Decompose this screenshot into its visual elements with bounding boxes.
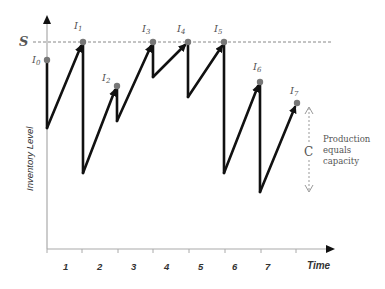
label-i1: I1 (73, 20, 82, 33)
x-axis-ticks (47, 249, 296, 253)
x-axis-arrow-icon (326, 245, 335, 253)
label-i3: I3 (141, 23, 151, 36)
x-axis-label: Time (307, 260, 331, 271)
point-i7 (294, 100, 300, 106)
point-i5 (221, 39, 227, 45)
label-i6: I6 (252, 61, 262, 74)
capacity-c-label: C (304, 145, 313, 159)
period-3: 3 (131, 261, 137, 272)
point-i4 (185, 39, 191, 45)
period-5: 5 (198, 261, 204, 272)
period-6: 6 (232, 261, 238, 272)
label-i4: I4 (176, 23, 185, 36)
y-axis-label: Inventory Level (24, 126, 35, 191)
period-7: 7 (265, 261, 271, 272)
y-axis-arrow-icon (43, 15, 51, 24)
label-i2: I2 (101, 72, 111, 85)
inventory-diagram: S I0 I1 I2 I3 I4 I5 I6 I7 (0, 0, 385, 289)
period-4: 4 (163, 261, 170, 272)
point-i2 (114, 83, 120, 89)
label-i5: I5 (213, 23, 223, 36)
point-i0 (44, 57, 50, 63)
annotation-line-3: capacity (323, 156, 359, 166)
period-1: 1 (63, 261, 68, 272)
label-i7: I7 (289, 85, 299, 98)
annotation-line-2: equals (323, 145, 351, 155)
point-i3 (150, 39, 156, 45)
period-labels: 1 2 3 4 5 6 7 (63, 261, 271, 272)
label-i0: I0 (31, 54, 41, 67)
point-i1 (80, 39, 86, 45)
point-i6 (257, 79, 263, 85)
inventory-path (47, 42, 295, 192)
capacity-indicator: C Production equals capacity (302, 107, 371, 192)
period-2: 2 (96, 261, 103, 272)
annotation-line-1: Production (323, 134, 371, 144)
s-label: S (19, 34, 28, 49)
